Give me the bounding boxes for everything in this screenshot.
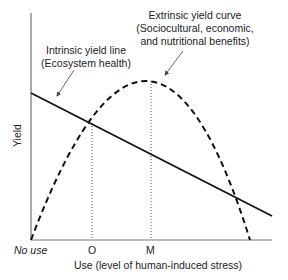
x-tick-m: M (146, 244, 155, 256)
extrinsic-label: Extrinsic yield curve (Sociocultural, ec… (130, 9, 260, 48)
intrinsic-label: Intrinsic yield line (Ecosystem health) (30, 44, 142, 70)
extrinsic-label-title: Extrinsic yield curve (130, 9, 260, 22)
extrinsic-label-subtitle-2: and nutritional benefits) (130, 35, 260, 48)
extrinsic-yield-curve (31, 81, 250, 240)
intrinsic-label-subtitle: (Ecosystem health) (30, 57, 142, 70)
intrinsic-arrow-icon (57, 70, 74, 96)
extrinsic-label-subtitle-1: (Sociocultural, economic, (130, 22, 260, 35)
x-axis-label: Use (level of human-induced stress) (58, 259, 258, 272)
extrinsic-arrow-icon (165, 51, 183, 75)
x-tick-o: O (88, 244, 96, 256)
yield-diagram: Intrinsic yield line (Ecosystem health) … (0, 0, 288, 280)
intrinsic-label-title: Intrinsic yield line (30, 44, 142, 57)
x-tick-no-use: No use (14, 244, 47, 256)
y-axis-label: Yield (11, 124, 23, 147)
